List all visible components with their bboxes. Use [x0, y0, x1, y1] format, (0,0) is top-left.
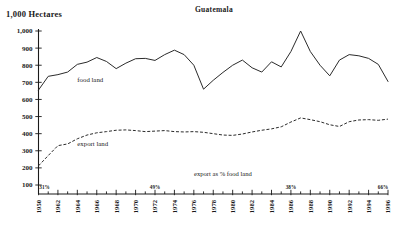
x-tick-label: 1988: [307, 199, 314, 213]
percent-annotation: 49%: [150, 184, 160, 190]
x-tick-label: 1968: [113, 199, 120, 213]
series-labels: food landexport land: [77, 76, 108, 146]
percent-annotations: 31%49%38%66%: [39, 184, 388, 190]
x-axis: 1950196219641966196819701972197419761978…: [35, 190, 392, 213]
percent-annotation: 66%: [378, 184, 388, 190]
chart-container: 1,000 Hectares Guatemala 100200300400500…: [0, 0, 398, 234]
x-tick-label: 1984: [268, 199, 275, 213]
series-label-food-land: food land: [77, 76, 103, 83]
x-tick-label: 1964: [74, 199, 81, 213]
y-tick-label: 100: [22, 181, 33, 189]
x-tick-label: 1996: [384, 199, 391, 213]
chart-plot-area: 1002003004005006007008009001,000 1950196…: [0, 0, 398, 234]
x-tick-label: 1976: [190, 199, 197, 213]
y-tick-label: 400: [22, 130, 33, 138]
y-tick-label: 900: [22, 45, 33, 53]
y-tick-label: 300: [22, 147, 33, 155]
x-tick-label: 1994: [365, 199, 372, 213]
y-tick-label: 800: [22, 62, 33, 70]
x-tick-label: 1962: [54, 199, 61, 213]
series-label-export-land: export land: [77, 140, 108, 147]
x-tick-label: 1972: [151, 199, 158, 213]
y-tick-label: 600: [22, 96, 33, 104]
y-axis: 1002003004005006007008009001,000: [17, 27, 42, 194]
x-tick-label: 1982: [248, 199, 255, 213]
x-tick-label: 1992: [346, 199, 353, 213]
x-tick-label: 1970: [132, 199, 139, 213]
percent-annotation: 31%: [39, 184, 49, 190]
x-tick-label: 1974: [171, 199, 178, 213]
y-tick-label: 500: [22, 113, 33, 121]
inline-note: export as % food land: [194, 170, 253, 177]
x-tick-label: 1986: [287, 199, 294, 213]
percent-annotation: 38%: [286, 184, 296, 190]
export-percent-note: export as % food land: [194, 170, 253, 177]
x-tick-label: 1990: [326, 199, 333, 213]
y-tick-label: 200: [22, 164, 33, 172]
y-tick-label: 700: [22, 79, 33, 87]
x-tick-label: 1978: [210, 199, 217, 213]
y-tick-label: 1,000: [17, 27, 33, 35]
x-tick-label: 1966: [93, 199, 100, 213]
x-tick-label: 1980: [229, 199, 236, 213]
x-tick-label: 1950: [35, 199, 42, 213]
